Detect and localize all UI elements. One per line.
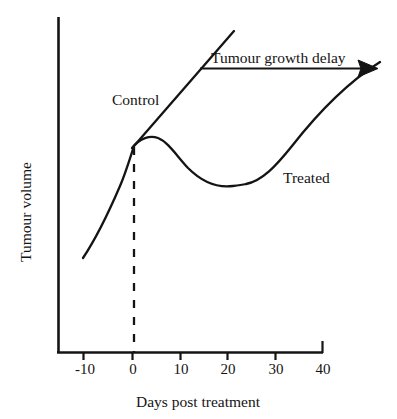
- x-tick-label-30: 30: [269, 362, 284, 377]
- x-axis-ticks: [84, 341, 323, 360]
- growth-delay-label: Tumour growth delay: [211, 50, 346, 66]
- treated-curve: [132, 62, 380, 186]
- treated-curve-label: Treated: [283, 170, 330, 186]
- x-tick-label-10: 10: [174, 362, 189, 377]
- y-axis-title: Tumour volume: [18, 162, 34, 262]
- tumour-growth-delay-figure: -10 0 10 20 30 40 Days post treatment Tu…: [0, 0, 397, 419]
- x-tick-label-20: 20: [221, 362, 236, 377]
- x-axis-title: Days post treatment: [136, 394, 260, 410]
- growth-delay-arrow-head: [358, 60, 378, 77]
- x-tick-label-40: 40: [316, 362, 331, 377]
- x-tick-label--10: -10: [75, 362, 95, 377]
- control-curve-label: Control: [112, 92, 159, 108]
- x-tick-label-0: 0: [129, 362, 137, 377]
